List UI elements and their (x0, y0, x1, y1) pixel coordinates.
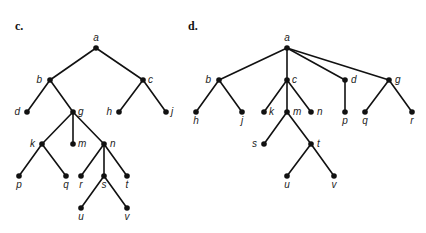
node-m (70, 141, 76, 147)
node-label-r: r (410, 115, 414, 126)
node-n (101, 141, 107, 147)
node-label-k: k (30, 138, 36, 149)
node-label-q: q (63, 179, 69, 190)
node-j (239, 109, 245, 115)
node-h (193, 109, 199, 115)
node-n (308, 109, 314, 115)
node-label-u: u (78, 211, 84, 222)
node-j (163, 109, 169, 115)
tree-c: c.abcdghjkmnpqrstuv (14, 19, 174, 222)
node-c (140, 77, 146, 83)
node-label-n: n (110, 138, 116, 149)
edge-g-k (42, 112, 73, 144)
edge-g-q (365, 80, 389, 112)
node-label-s: s (252, 138, 257, 149)
node-label-d: d (14, 106, 20, 117)
panel-label-d: d. (188, 19, 198, 33)
node-b (216, 77, 222, 83)
edge-b-j (219, 80, 242, 112)
node-p (16, 173, 22, 179)
node-d (342, 77, 348, 83)
node-label-h: h (193, 115, 199, 126)
node-label-j: j (239, 115, 244, 126)
edge-s-v (104, 176, 127, 208)
node-p (342, 109, 348, 115)
node-r (78, 173, 84, 179)
edge-a-g (287, 48, 389, 80)
node-label-s: s (102, 179, 107, 190)
panel-label-c: c. (15, 19, 23, 33)
node-a (284, 45, 290, 51)
node-g (70, 109, 76, 115)
node-g (386, 77, 392, 83)
edge-t-u (287, 144, 311, 176)
node-t (308, 141, 314, 147)
node-u (78, 205, 84, 211)
node-label-v: v (125, 211, 131, 222)
node-h (116, 109, 122, 115)
node-a (93, 45, 99, 51)
node-label-q: q (362, 115, 368, 126)
edge-b-g (50, 80, 73, 112)
node-label-t: t (126, 179, 130, 190)
node-k (39, 141, 45, 147)
node-q (362, 109, 368, 115)
node-k (261, 109, 267, 115)
node-label-b: b (205, 74, 211, 85)
node-label-g: g (395, 74, 401, 85)
edge-a-b (219, 48, 287, 80)
node-label-u: u (284, 179, 290, 190)
node-v (331, 173, 337, 179)
edge-a-c (96, 48, 143, 80)
edge-c-k (264, 80, 287, 112)
node-label-k: k (269, 106, 275, 117)
node-label-n: n (317, 106, 323, 117)
edge-m-s (264, 112, 287, 144)
edge-c-j (143, 80, 166, 112)
node-label-g: g (78, 106, 84, 117)
node-label-d: d (351, 74, 357, 85)
node-label-t: t (317, 138, 321, 149)
node-c (284, 77, 290, 83)
node-v (124, 205, 130, 211)
node-label-m: m (293, 106, 301, 117)
edge-k-q (42, 144, 66, 176)
node-label-j: j (169, 106, 174, 117)
node-m (284, 109, 290, 115)
node-d (24, 109, 30, 115)
node-label-p: p (15, 179, 22, 190)
node-q (63, 173, 69, 179)
node-label-c: c (292, 74, 297, 85)
node-t (124, 173, 130, 179)
node-label-r: r (79, 179, 83, 190)
node-label-v: v (332, 179, 338, 190)
tree-diagrams: c.abcdghjkmnpqrstuv d.abcdghjkmnpqrstuv (0, 0, 426, 233)
node-u (284, 173, 290, 179)
node-label-h: h (106, 106, 112, 117)
node-label-c: c (148, 74, 153, 85)
edge-c-h (119, 80, 143, 112)
node-s (101, 173, 107, 179)
edge-t-v (311, 144, 334, 176)
node-label-p: p (341, 115, 348, 126)
node-label-b: b (36, 74, 42, 85)
tree-d: d.abcdghjkmnpqrstuv (188, 19, 415, 190)
node-r (409, 109, 415, 115)
node-label-m: m (78, 138, 86, 149)
edge-a-b (50, 48, 96, 80)
node-b (47, 77, 53, 83)
node-label-a: a (93, 32, 99, 43)
node-s (261, 141, 267, 147)
node-label-a: a (284, 32, 290, 43)
